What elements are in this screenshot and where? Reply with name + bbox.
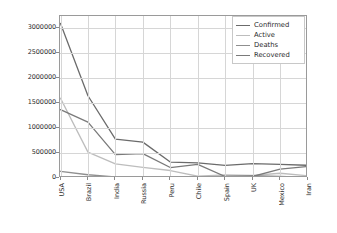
legend-swatch-recovered [236, 55, 250, 56]
gridline-vertical [115, 16, 116, 176]
legend-swatch-active [236, 35, 250, 36]
chart-figure: 0500000100000015000002000000250000030000… [0, 0, 337, 233]
x-tick-label: Iran [305, 183, 313, 196]
legend-label-confirmed: Confirmed [254, 21, 289, 29]
gridline-vertical [198, 16, 199, 176]
x-tick-label: Russia [140, 183, 148, 204]
x-tick-label: Peru [168, 183, 176, 197]
legend-swatch-confirmed [236, 25, 250, 26]
chart-legend: Confirmed Active Deaths Recovered [232, 16, 305, 64]
legend-item[interactable]: Confirmed [236, 20, 300, 30]
x-tick-mark [60, 177, 61, 180]
gridline-vertical [170, 16, 171, 176]
gridline-vertical [88, 16, 89, 176]
x-tick-label: India [113, 183, 121, 199]
gridline-horizontal [60, 128, 306, 129]
legend-item[interactable]: Deaths [236, 40, 300, 50]
x-tick-mark [307, 177, 308, 180]
x-tick-label: UK [250, 183, 258, 192]
legend-label-deaths: Deaths [254, 41, 278, 49]
gridline-horizontal [60, 153, 306, 154]
x-tick-label: USA [58, 183, 66, 196]
x-axis: USABrazilIndiaRussiaPeruChileSpainUKMexi… [59, 177, 307, 233]
x-tick-label: Brazil [85, 183, 93, 201]
x-tick-mark [142, 177, 143, 180]
x-tick-mark [224, 177, 225, 180]
legend-swatch-deaths [236, 45, 250, 46]
gridline-vertical [225, 16, 226, 176]
legend-label-active: Active [254, 31, 275, 39]
x-tick-label: Chile [195, 183, 203, 199]
x-tick-mark [197, 177, 198, 180]
gridline-horizontal [60, 78, 306, 79]
x-tick-mark [87, 177, 88, 180]
gridline-horizontal [60, 103, 306, 104]
legend-item[interactable]: Recovered [236, 50, 300, 60]
gridline-vertical [61, 16, 62, 176]
legend-label-recovered: Recovered [254, 51, 290, 59]
gridline-vertical [143, 16, 144, 176]
x-tick-mark [114, 177, 115, 180]
y-axis-ticks [0, 15, 60, 177]
series-line-recovered [61, 110, 308, 177]
x-tick-label: Spain [223, 183, 231, 201]
x-tick-mark [252, 177, 253, 180]
x-tick-label: Mexico [278, 183, 286, 206]
legend-item[interactable]: Active [236, 30, 300, 40]
x-tick-mark [279, 177, 280, 180]
x-tick-mark [169, 177, 170, 180]
